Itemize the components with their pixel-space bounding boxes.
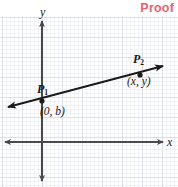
x-axis-label: x (167, 136, 172, 148)
point-p1-label: P1 (37, 83, 48, 95)
point-p2-label: P2 (133, 53, 144, 65)
point-p1-coordinate-label: (0, b) (40, 106, 65, 118)
point-p2-coordinate-label: (x, y) (127, 76, 151, 88)
y-axis-label: y (40, 6, 45, 18)
point-p1-marker (39, 98, 44, 103)
point-p2-subscript: 2 (140, 58, 144, 67)
proof-figure: Proof y x P1 P2 (0, 0, 178, 187)
diagram-vector-layer (0, 0, 178, 187)
point-p1-subscript: 1 (44, 88, 48, 97)
